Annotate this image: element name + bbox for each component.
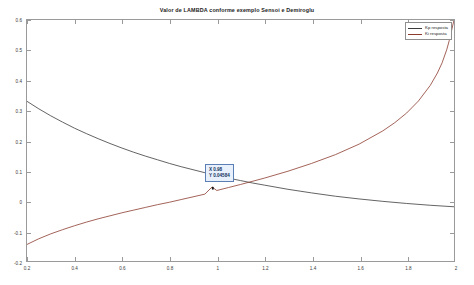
x-tick-mark — [408, 257, 409, 261]
y-tick-mark — [450, 202, 454, 203]
x-axis-tick-label: 1.6 — [357, 266, 363, 271]
y-tick-mark — [27, 233, 31, 234]
y-tick-mark — [27, 81, 31, 82]
x-tick-mark — [27, 20, 28, 24]
x-tick-mark — [313, 20, 314, 24]
x-axis-tick-label: 1.4 — [310, 266, 316, 271]
x-tick-mark — [361, 257, 362, 261]
y-tick-mark — [27, 111, 31, 112]
x-tick-mark — [313, 257, 314, 261]
y-axis-tick-label: 0.5 — [16, 48, 22, 53]
y-axis-tick-label: -0.2 — [14, 261, 22, 266]
figure-canvas: Valor de LAMBDA conforme exemplo Sensoi … — [0, 0, 474, 285]
page-title: Valor de LAMBDA conforme exemplo Sensoi … — [0, 6, 474, 14]
x-tick-mark — [170, 257, 171, 261]
x-axis-tick-label: 0.8 — [167, 266, 173, 271]
x-tick-mark — [170, 20, 171, 24]
y-tick-mark — [27, 172, 31, 173]
x-axis-tick-label: 1 — [216, 266, 219, 271]
x-tick-mark — [265, 20, 266, 24]
plot-area: X 0.98 Y 0.04584 Kp resposta Ki resposta — [27, 20, 454, 261]
y-tick-mark — [450, 111, 454, 112]
legend-swatch-kp — [408, 28, 422, 29]
y-axis-tick-label: -0.1 — [14, 230, 22, 235]
y-tick-mark — [450, 50, 454, 51]
y-axis-tick-label: 0 — [19, 200, 22, 205]
x-axis-tick-label: 2 — [455, 266, 458, 271]
x-tick-mark — [75, 20, 76, 24]
datatip-y-value: Y 0.04584 — [209, 173, 230, 180]
x-axis-tick-label: 0.6 — [119, 266, 125, 271]
series-line-kp-resposta — [27, 101, 454, 206]
y-tick-mark — [450, 20, 454, 21]
x-tick-mark — [122, 20, 123, 24]
x-axis-tick-label: 1.2 — [262, 266, 268, 271]
y-tick-mark — [27, 50, 31, 51]
x-tick-mark — [27, 257, 28, 261]
x-tick-mark — [122, 257, 123, 261]
y-tick-mark — [27, 202, 31, 203]
y-tick-mark — [450, 172, 454, 173]
curve-layer — [27, 20, 454, 261]
legend-swatch-ki — [408, 34, 422, 35]
y-axis-tick-label: 0.4 — [16, 78, 22, 83]
legend-label-ki: Ki resposta — [425, 31, 447, 37]
y-tick-mark — [450, 233, 454, 234]
y-axis-tick-label: 0.1 — [16, 169, 22, 174]
y-axis-tick-label: 0.3 — [16, 109, 22, 114]
y-tick-mark — [450, 81, 454, 82]
x-axis-tick-label: 1.8 — [405, 266, 411, 271]
x-tick-mark — [75, 257, 76, 261]
x-axis-tick-label: 0.2 — [24, 266, 30, 271]
x-tick-mark — [361, 20, 362, 24]
plot-axes-box: X 0.98 Y 0.04584 Kp resposta Ki resposta… — [26, 19, 455, 262]
x-tick-mark — [218, 20, 219, 24]
y-axis-tick-label: 0.6 — [16, 18, 22, 23]
x-tick-mark — [218, 257, 219, 261]
series-line-ki-resposta — [27, 20, 454, 244]
x-axis-tick-label: 0.4 — [71, 266, 77, 271]
y-tick-mark — [450, 142, 454, 143]
y-tick-mark — [27, 142, 31, 143]
datatip-box[interactable]: X 0.98 Y 0.04584 — [205, 164, 234, 182]
legend-item-ki-resposta[interactable]: Ki resposta — [408, 31, 448, 37]
legend[interactable]: Kp resposta Ki resposta — [405, 22, 452, 40]
y-axis-tick-label: 0.2 — [16, 139, 22, 144]
x-tick-mark — [265, 257, 266, 261]
